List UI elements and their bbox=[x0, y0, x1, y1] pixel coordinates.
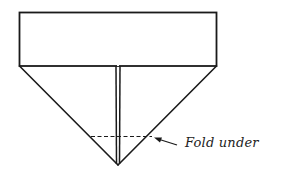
fold-under-label: Fold under bbox=[185, 135, 259, 150]
center-crease-left bbox=[116, 66, 117, 164]
fold-diagram: Fold under bbox=[0, 0, 282, 178]
triangle-left-edge bbox=[20, 66, 119, 165]
center-crease-right bbox=[120, 66, 121, 164]
top-band bbox=[20, 13, 217, 67]
triangle-right-edge bbox=[118, 66, 217, 165]
diagram-canvas bbox=[0, 0, 282, 178]
arrow-head-icon bbox=[154, 138, 162, 143]
